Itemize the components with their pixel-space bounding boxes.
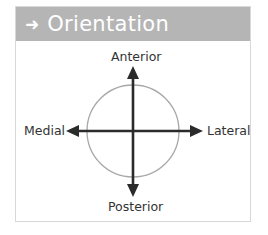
arrow-right-icon <box>190 125 203 137</box>
label-posterior: Posterior <box>108 199 163 214</box>
label-medial: Medial <box>24 123 65 138</box>
label-lateral: Lateral <box>207 123 251 138</box>
arrow-left-icon <box>66 125 79 137</box>
arrow-up-icon <box>127 66 139 79</box>
label-anterior: Anterior <box>111 49 161 64</box>
arrow-down-icon <box>127 184 139 197</box>
